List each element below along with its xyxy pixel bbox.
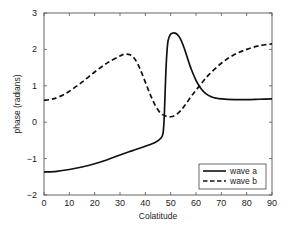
x-tick-label: 30	[115, 198, 125, 208]
x-tick-label: 0	[41, 198, 46, 208]
series-wave-b	[44, 44, 272, 117]
x-tick-label: 90	[267, 198, 277, 208]
legend-label-wave-b: wave b	[229, 176, 257, 186]
y-tick-label: −1	[27, 154, 37, 164]
legend-label-wave-a: wave a	[229, 166, 257, 176]
y-tick-label: 0	[32, 117, 37, 127]
line-chart: 0102030405060708090−2−10123 wave a wave …	[0, 0, 290, 229]
legend: wave a wave b	[199, 164, 266, 189]
y-tick-label: −2	[27, 190, 37, 200]
x-tick-label: 70	[216, 198, 226, 208]
x-tick-label: 50	[166, 198, 176, 208]
x-axis-label: Colatitude	[139, 211, 178, 221]
series-layer	[44, 33, 272, 172]
x-tick-label: 60	[191, 198, 201, 208]
x-tick-label: 10	[64, 198, 74, 208]
y-tick-label: 3	[32, 8, 37, 18]
y-axis-label: phase (radians)	[12, 74, 22, 133]
y-tick-label: 2	[32, 44, 37, 54]
x-tick-label: 40	[140, 198, 150, 208]
x-tick-label: 20	[90, 198, 100, 208]
x-tick-label: 80	[242, 198, 252, 208]
series-wave-a	[44, 33, 272, 172]
y-tick-label: 1	[32, 81, 37, 91]
